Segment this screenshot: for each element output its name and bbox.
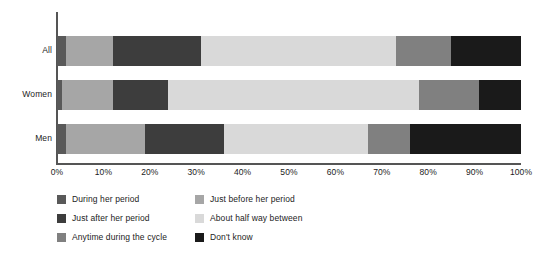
x-axis-tick-label: 20% (141, 167, 158, 177)
legend-item: Anytime during the cycle (57, 230, 167, 244)
bar-segment (62, 80, 113, 110)
x-axis-tick-label: 30% (188, 167, 205, 177)
legend-swatch-icon (57, 195, 66, 204)
bar-segment (419, 80, 479, 110)
x-axis-tick-label: 70% (373, 167, 390, 177)
x-axis-tick-label: 90% (466, 167, 483, 177)
x-axis-tick-label: 80% (420, 167, 437, 177)
bar-segment (479, 80, 521, 110)
legend-item-label: Just before her period (210, 194, 295, 204)
legend-item: About half way between (195, 211, 302, 225)
legend-swatch-icon (57, 233, 66, 242)
bar-row (57, 124, 521, 154)
bar-segment (66, 36, 112, 66)
bar-segment (451, 36, 521, 66)
x-axis-tick-label: 100% (510, 167, 532, 177)
legend-item: During her period (57, 192, 139, 206)
legend-swatch-icon (195, 195, 204, 204)
chart-legend: During her periodJust after her periodAn… (57, 190, 477, 246)
bar-segment (113, 36, 201, 66)
legend-item-label: Anytime during the cycle (72, 232, 167, 242)
legend-item-label: During her period (72, 194, 139, 204)
x-axis-tick-labels: 0%10%20%30%40%50%60%70%80%90%100% (57, 167, 521, 181)
legend-swatch-icon (195, 214, 204, 223)
x-axis-tick-label: 50% (280, 167, 297, 177)
stacked-bar-chart: All Women Men 0%10%20%30%40%50%60%70%80%… (0, 0, 544, 254)
legend-swatch-icon (57, 214, 66, 223)
bar-segment (168, 80, 419, 110)
x-axis-tick-label: 40% (234, 167, 251, 177)
bar-row (57, 36, 521, 66)
legend-item-label: Just after her period (72, 213, 150, 223)
bar-segment (66, 124, 145, 154)
y-axis-tick-label-women: Women (0, 89, 52, 99)
bar-segment (410, 124, 521, 154)
x-axis-tick-label: 10% (95, 167, 112, 177)
legend-item-label: About half way between (210, 213, 302, 223)
bar-row (57, 80, 521, 110)
x-axis-tick-label: 60% (327, 167, 344, 177)
bar-segment (57, 36, 66, 66)
legend-item-label: Don't know (210, 232, 253, 242)
bar-segment (57, 124, 66, 154)
legend-swatch-icon (195, 233, 204, 242)
plot-area (57, 12, 521, 164)
y-axis-tick-label-all: All (0, 45, 52, 55)
y-axis-tick-labels: All Women Men (0, 12, 52, 164)
legend-item: Just after her period (57, 211, 150, 225)
x-axis-tick-label: 0% (51, 167, 64, 177)
bar-segment (224, 124, 368, 154)
legend-item: Just before her period (195, 192, 295, 206)
bar-segment (145, 124, 224, 154)
bar-segment (113, 80, 169, 110)
y-axis-tick-label-men: Men (0, 133, 52, 143)
bar-segment (201, 36, 396, 66)
legend-item: Don't know (195, 230, 253, 244)
bar-segment (368, 124, 410, 154)
bar-segment (396, 36, 452, 66)
